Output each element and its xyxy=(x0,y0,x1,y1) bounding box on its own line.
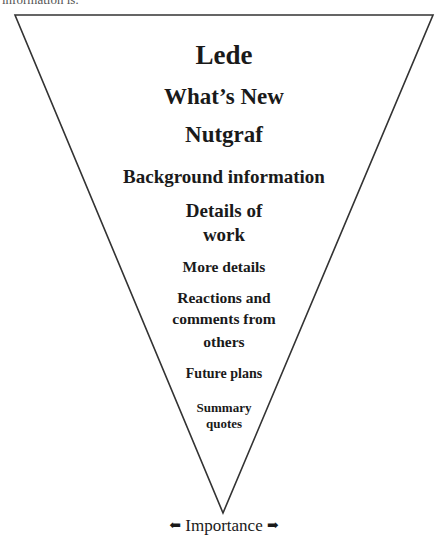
layer-details-of-work-line1: Details of xyxy=(0,201,448,220)
layer-summary-quotes-line1: Summary xyxy=(0,401,448,414)
arrow-left-icon: ⬅ xyxy=(169,519,181,533)
layer-future-plans: Future plans xyxy=(0,367,448,381)
importance-label: Importance xyxy=(185,516,262,535)
layer-reactions-line3: others xyxy=(0,334,448,350)
layer-details-of-work-line2: work xyxy=(0,225,448,244)
layer-background-information: Background information xyxy=(0,167,448,186)
layer-nutgraf: Nutgraf xyxy=(0,123,448,146)
layer-more-details: More details xyxy=(0,259,448,275)
layer-summary-quotes-line2: quotes xyxy=(0,417,448,430)
layer-whats-new: What’s New xyxy=(0,85,448,108)
layer-reactions-line1: Reactions and xyxy=(0,290,448,306)
layer-lede: Lede xyxy=(0,42,448,69)
importance-axis: ⬅ Importance ➡ xyxy=(0,517,448,534)
arrow-right-icon: ➡ xyxy=(267,519,279,533)
layer-reactions-line2: comments from xyxy=(0,311,448,327)
